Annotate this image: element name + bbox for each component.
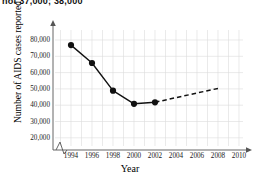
y-axis-title: Number of AIDS cases reported (13, 13, 23, 123)
y-tick-label-80000: 80,000 (23, 36, 50, 44)
data-point (152, 99, 158, 105)
data-point (68, 42, 74, 48)
x-tick-label-2010: 2010 (226, 152, 252, 160)
grid-vertical (61, 30, 240, 146)
data-point (131, 101, 137, 107)
y-axis (50, 20, 56, 150)
data-point (110, 88, 116, 94)
y-tick-label-20000: 20,000 (23, 134, 50, 142)
x-axis-title: Year (90, 163, 170, 174)
y-tick-label-50000: 50,000 (23, 85, 50, 93)
data-point (89, 60, 95, 66)
y-tick-label-70000: 70,000 (23, 52, 50, 60)
y-tick-label-30000: 30,000 (23, 118, 50, 126)
y-tick-label-60000: 60,000 (23, 69, 50, 77)
line-chart-figure: 80,000 70,000 60,000 50,000 40,000 30,00… (0, 8, 261, 183)
chart-page: not 37,000; 38,000 (0, 0, 261, 183)
y-tick-label-40000: 40,000 (23, 101, 50, 109)
